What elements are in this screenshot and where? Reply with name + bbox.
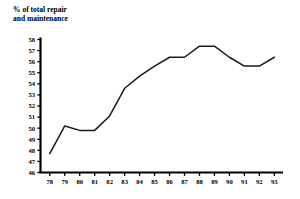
- plot-area: 46474849505152535455565758 7879808182838…: [0, 0, 300, 199]
- y-axis-ticks: 46474849505152535455565758: [28, 36, 40, 176]
- y-tick-label: 57: [28, 47, 35, 54]
- y-tick-label: 46: [28, 169, 35, 176]
- x-tick-label: 89: [211, 178, 218, 185]
- x-tick-label: 83: [121, 178, 128, 185]
- y-tick-label: 48: [28, 147, 35, 154]
- x-tick-label: 81: [91, 178, 98, 185]
- data-series-line: [50, 46, 275, 154]
- line-chart-figure: % of total repair and maintenance 464748…: [0, 0, 300, 199]
- y-tick-label: 55: [28, 69, 35, 76]
- x-tick-label: 86: [166, 178, 173, 185]
- x-tick-label: 90: [226, 178, 233, 185]
- x-tick-label: 87: [181, 178, 188, 185]
- x-tick-label: 85: [151, 178, 158, 185]
- x-tick-label: 93: [271, 178, 278, 185]
- y-tick-label: 51: [28, 113, 35, 120]
- y-tick-label: 54: [28, 80, 35, 87]
- y-tick-label: 50: [28, 125, 35, 132]
- y-tick-label: 47: [28, 158, 35, 165]
- x-tick-label: 91: [241, 178, 248, 185]
- x-tick-label: 84: [136, 178, 143, 185]
- x-tick-label: 79: [61, 178, 68, 185]
- x-tick-label: 92: [256, 178, 263, 185]
- y-tick-label: 53: [28, 91, 35, 98]
- y-tick-label: 58: [28, 36, 35, 43]
- y-tick-label: 56: [28, 58, 35, 65]
- y-tick-label: 52: [28, 102, 35, 109]
- x-tick-label: 80: [76, 178, 83, 185]
- x-axis-ticks: 78798081828384858687888990919293: [46, 173, 278, 186]
- x-tick-label: 82: [106, 178, 113, 185]
- x-tick-label: 88: [196, 178, 203, 185]
- x-tick-label: 78: [46, 178, 53, 185]
- y-tick-label: 49: [28, 136, 35, 143]
